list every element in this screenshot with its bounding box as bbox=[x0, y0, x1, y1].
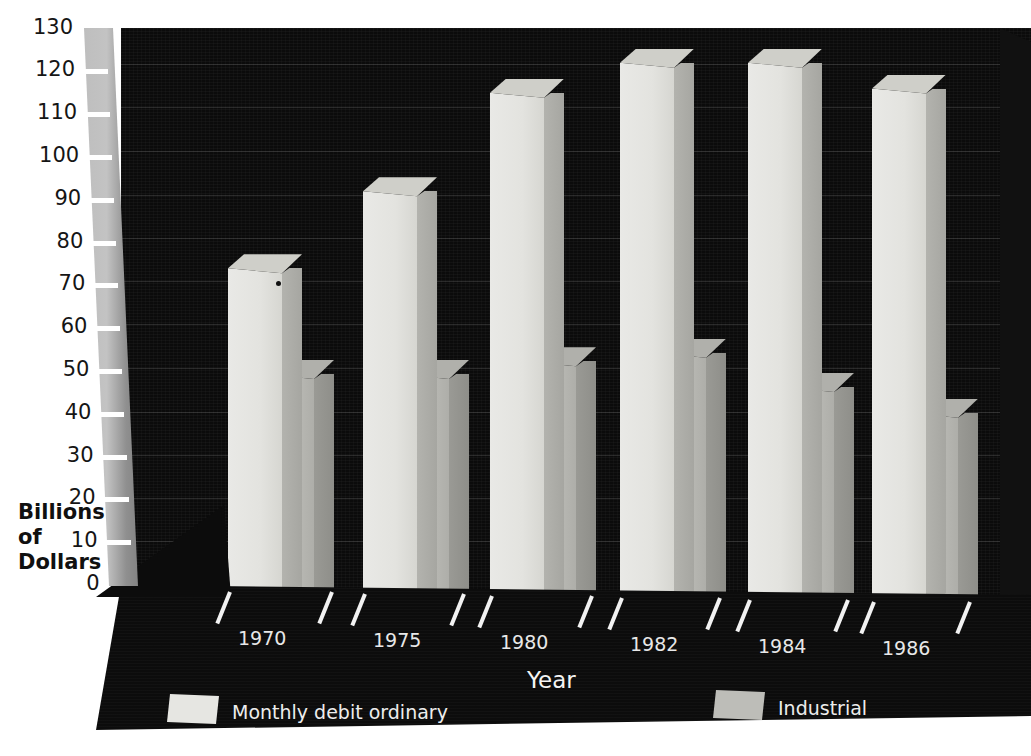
y-axis-tick bbox=[92, 283, 118, 288]
y-axis-tick-label: 70 bbox=[0, 273, 85, 294]
legend-label-industrial: Industrial bbox=[778, 699, 867, 718]
x-axis-tick-label: 1986 bbox=[882, 639, 930, 658]
y-axis-tick bbox=[88, 198, 114, 203]
bar-front-face bbox=[228, 268, 282, 599]
y-axis-tick bbox=[98, 412, 124, 417]
y-axis-tick-label: 120 bbox=[0, 59, 75, 80]
y-axis-tick-label: 110 bbox=[0, 102, 77, 123]
x-axis-tick-label: 1982 bbox=[630, 635, 678, 654]
bar-side-face bbox=[576, 361, 596, 609]
y-axis-tick-label: 130 bbox=[0, 17, 73, 38]
y-axis-title-line-3: Dollars bbox=[18, 550, 138, 575]
bar-side-face bbox=[958, 413, 978, 609]
bar-side-face bbox=[674, 63, 694, 607]
x-axis-tick-label: 1975 bbox=[373, 631, 421, 650]
y-axis-title-line-1: Billions bbox=[18, 500, 138, 525]
x-axis-tick-label: 1980 bbox=[500, 633, 548, 652]
y-axis-tick bbox=[86, 155, 112, 160]
bar-front-face bbox=[490, 93, 544, 599]
bar-side-face bbox=[544, 93, 564, 607]
y-axis-tick-label: 60 bbox=[0, 316, 87, 337]
legend-label-monthly-debit-ordinary: Monthly debit ordinary bbox=[232, 703, 448, 722]
bar-monthly-debit-ordinary-1984 bbox=[748, 63, 802, 599]
y-axis-title-line-2: of bbox=[18, 525, 138, 550]
y-axis-title: Billions of Dollars bbox=[18, 500, 138, 575]
bar-side-face bbox=[282, 268, 302, 607]
y-axis-tick-label: 30 bbox=[0, 445, 94, 466]
bar-side-face bbox=[449, 374, 469, 609]
y-axis-tick bbox=[82, 69, 108, 74]
y-axis-tick-label: 90 bbox=[0, 188, 81, 209]
bar-monthly-debit-ordinary-1980 bbox=[490, 93, 544, 599]
bar-side-face bbox=[314, 374, 334, 609]
y-axis-tick-label: 0 bbox=[5, 573, 100, 594]
x-axis-tick-label: 1984 bbox=[758, 637, 806, 656]
bar-monthly-debit-ordinary-1986 bbox=[872, 89, 926, 599]
bar-monthly-debit-ordinary-1970 bbox=[228, 268, 282, 599]
bar-front-face bbox=[748, 63, 802, 599]
y-axis-tick bbox=[101, 455, 127, 460]
bar-front-face bbox=[872, 89, 926, 599]
y-axis-tick-label: 80 bbox=[0, 231, 83, 252]
chart-canvas: 197019751980198219841986Year 01020304050… bbox=[0, 0, 1031, 756]
bar-side-face bbox=[802, 63, 822, 607]
y-axis-tick-label: 100 bbox=[0, 145, 79, 166]
y-axis-tick bbox=[94, 326, 120, 331]
bar-side-face bbox=[926, 89, 946, 607]
bar-side-face bbox=[706, 353, 726, 609]
x-axis-tick-label: 1970 bbox=[238, 629, 286, 648]
bar-monthly-debit-ordinary-1975 bbox=[363, 191, 417, 599]
bar-side-face bbox=[417, 191, 437, 607]
legend-swatch-monthly-debit-ordinary bbox=[167, 694, 219, 724]
y-axis-tick bbox=[84, 112, 110, 117]
bar-front-face bbox=[620, 63, 674, 599]
y-axis-tick bbox=[90, 241, 116, 246]
y-axis-tick-label: 40 bbox=[0, 402, 91, 423]
print-speck bbox=[276, 281, 281, 286]
y-axis-tick bbox=[96, 369, 122, 374]
x-axis-title: Year bbox=[527, 669, 576, 692]
legend-swatch-industrial bbox=[713, 690, 765, 720]
y-axis-tick-label: 50 bbox=[0, 359, 89, 380]
bar-side-face bbox=[834, 387, 854, 609]
bar-front-face bbox=[363, 191, 417, 599]
bar-monthly-debit-ordinary-1982 bbox=[620, 63, 674, 599]
